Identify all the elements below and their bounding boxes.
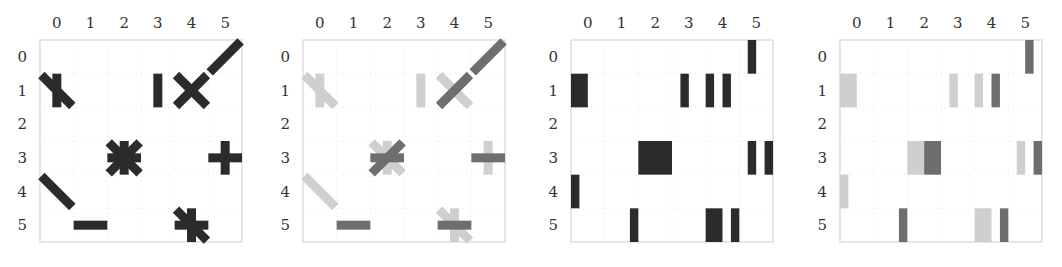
bar — [840, 74, 857, 108]
bar — [992, 74, 1000, 108]
x-tick-label: 2 — [919, 14, 929, 32]
bar — [975, 74, 983, 108]
bar — [924, 141, 941, 175]
bar — [1025, 40, 1033, 74]
x-tick-label: 0 — [852, 14, 862, 32]
bar — [907, 141, 924, 175]
y-tick-label: 5 — [817, 216, 827, 234]
x-tick-label: 5 — [1020, 14, 1030, 32]
y-tick-label: 4 — [817, 183, 827, 201]
x-tick-label: 3 — [953, 14, 963, 32]
x-tick-label: 4 — [987, 14, 997, 32]
bar — [949, 74, 957, 108]
bar — [840, 175, 848, 209]
panel-4-shaded-bar-matrix: 012345012345 — [0, 0, 265, 267]
x-tick-label: 1 — [886, 14, 896, 32]
y-tick-label: 1 — [817, 82, 827, 100]
y-tick-label: 3 — [817, 149, 827, 167]
panel-4-plot: 012345012345 — [0, 0, 1062, 267]
y-tick-label: 0 — [817, 48, 827, 66]
y-tick-label: 2 — [817, 115, 827, 133]
bar — [1000, 208, 1008, 242]
bar — [1034, 141, 1042, 175]
bar — [975, 208, 992, 242]
bar — [899, 208, 907, 242]
bar — [1017, 141, 1025, 175]
